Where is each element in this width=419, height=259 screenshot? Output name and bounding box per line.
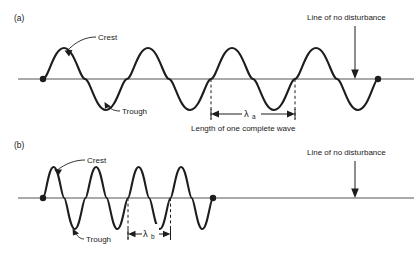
panel-a-baseline-label: Line of no disturbance [307, 13, 386, 22]
panel-a-wavelength-caption: Length of one complete wave [191, 124, 296, 133]
panel-b-end-dot [210, 195, 216, 201]
panel-b-lambda-left-arrowhead [128, 231, 136, 237]
panel-a-trough-label: Trough [122, 107, 147, 116]
panel-a-lambda-left-arrowhead [211, 111, 219, 118]
panel-b-crest-label: Crest [87, 156, 107, 165]
panel-a-baseline-arrowhead [351, 70, 359, 80]
panel-b-baseline-label: Line of no disturbance [307, 148, 386, 157]
wave-diagram-canvas: (a) Crest Trough Line of no disturbance [0, 0, 419, 259]
panel-a-lambda-subscript: a [252, 113, 256, 120]
panel-a-lambda-symbol: λ [244, 108, 249, 119]
panel-a-lambda-right-arrowhead [287, 111, 295, 118]
wave-diagram-figure: (a) Crest Trough Line of no disturbance [0, 0, 419, 259]
panel-a-label: (a) [14, 13, 25, 23]
panel-b-trough-label: Trough [86, 235, 111, 244]
panel-b-start-dot [40, 195, 46, 201]
panel-a: (a) Crest Trough Line of no disturbance [14, 13, 414, 133]
panel-a-crest-leader [66, 37, 96, 52]
panel-b-crest-leader [56, 160, 85, 171]
panel-b-lambda-subscript: b [151, 233, 155, 240]
panel-b: (b) Crest Trough Line of no disturbance [14, 140, 414, 244]
panel-b-lambda-right-arrowhead [163, 231, 171, 237]
panel-b-lambda-symbol: λ [143, 228, 148, 239]
panel-b-label: (b) [14, 140, 25, 150]
panel-a-start-dot [40, 76, 46, 82]
panel-b-crest-arrowhead [54, 170, 62, 176]
panel-a-end-dot [375, 76, 381, 82]
panel-b-baseline-arrowhead [351, 189, 359, 199]
panel-a-crest-label: Crest [98, 33, 118, 42]
